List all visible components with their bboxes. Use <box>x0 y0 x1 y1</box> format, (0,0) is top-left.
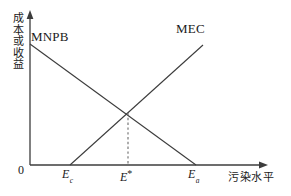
x-tick-ec-subscript: c <box>70 176 73 185</box>
x-axis-title: 污染水平 <box>228 172 274 183</box>
y-axis-title: 成本或收益 <box>8 12 23 70</box>
mnpb-curve <box>30 44 196 165</box>
mec-curve-label: MEC <box>176 22 205 35</box>
y-axis-arrow-icon <box>27 10 34 19</box>
x-tick-label-ea: Ea <box>188 168 199 183</box>
x-tick-ea-base: E <box>188 167 195 181</box>
economics-diagram: MNPB MEC 0 Ec E* Ea 成本或收益 污染水平 <box>0 0 291 196</box>
x-tick-label-estar: E* <box>120 168 132 183</box>
x-tick-ea-subscript: a <box>196 176 200 185</box>
x-axis-arrow-icon <box>259 162 268 169</box>
x-tick-label-ec: Ec <box>62 168 73 183</box>
mnpb-curve-label: MNPB <box>31 30 69 43</box>
mec-curve <box>70 45 203 165</box>
x-tick-ec-base: E <box>62 167 69 181</box>
x-tick-estar-superscript: * <box>127 168 132 179</box>
origin-label: 0 <box>18 164 24 176</box>
